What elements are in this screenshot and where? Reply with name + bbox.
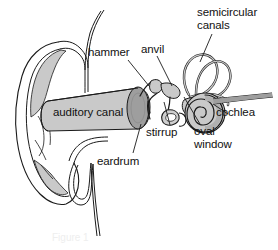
label-oval-window: oval window bbox=[194, 125, 232, 150]
semicircular-canal-posterior-fill bbox=[196, 61, 230, 98]
label-hammer: hammer bbox=[88, 46, 130, 59]
eustachian-tube-descend-right bbox=[91, 163, 97, 236]
label-stirrup: stirrup bbox=[146, 126, 177, 139]
label-anvil: anvil bbox=[141, 43, 164, 56]
ear-diagram-svg bbox=[0, 0, 278, 250]
label-eardrum: eardrum bbox=[97, 155, 139, 168]
eustachian-tube-descend-left bbox=[93, 164, 100, 236]
malleus-head bbox=[150, 80, 163, 94]
incus-long-process bbox=[168, 97, 170, 111]
figure-caption-ghost: Figure 1 bbox=[52, 232, 89, 243]
label-auditory-canal: auditory canal bbox=[53, 106, 123, 119]
pinna-ridge-3 bbox=[35, 140, 46, 160]
label-semicircular-canals: semicircular canals bbox=[197, 6, 257, 31]
leader-hammer bbox=[128, 60, 149, 86]
incus-bone bbox=[161, 83, 180, 98]
auditory-nerve bbox=[213, 93, 273, 104]
canal-wall-upper-inner bbox=[60, 48, 85, 93]
semicircular-canal-posterior bbox=[196, 61, 230, 98]
ear-anatomy-diagram: semicircular canals hammer anvil auditor… bbox=[0, 0, 278, 250]
auditory-nerve-fill bbox=[213, 93, 273, 104]
label-cochlea: cochlea bbox=[216, 106, 255, 119]
